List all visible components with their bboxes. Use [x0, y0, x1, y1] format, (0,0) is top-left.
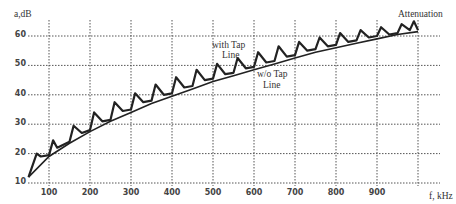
- svg-text:20: 20: [15, 148, 27, 157]
- svg-text:40: 40: [15, 89, 27, 98]
- svg-text:30: 30: [15, 118, 27, 127]
- svg-text:10: 10: [15, 177, 27, 186]
- x-axis-ticks: 100200300400500600700800900: [41, 188, 386, 197]
- svg-text:Line: Line: [222, 50, 239, 60]
- svg-text:w/o Tap: w/o Tap: [257, 69, 288, 79]
- svg-text:900: 900: [369, 188, 386, 197]
- attenuation-chart: 102030405060 100200300400500600700800900…: [0, 0, 456, 204]
- annotation-attenuation: Attenuation: [398, 9, 443, 19]
- svg-text:50: 50: [15, 59, 27, 68]
- svg-text:600: 600: [246, 188, 263, 197]
- svg-text:200: 200: [82, 188, 99, 197]
- annotation-with-tap-line: with Tap Line: [212, 40, 245, 60]
- svg-text:with Tap: with Tap: [212, 40, 245, 50]
- svg-text:60: 60: [15, 30, 27, 39]
- svg-text:Line: Line: [263, 80, 280, 90]
- svg-text:700: 700: [287, 188, 304, 197]
- annotation-without-tap-line: w/o Tap Line: [257, 69, 288, 90]
- svg-text:500: 500: [205, 188, 222, 197]
- x-axis-label: f, kHz: [429, 191, 453, 201]
- y-axis-label: a,dB: [14, 9, 32, 19]
- svg-text:300: 300: [123, 188, 140, 197]
- svg-text:800: 800: [328, 188, 345, 197]
- svg-text:100: 100: [41, 188, 58, 197]
- y-axis-ticks: 102030405060: [15, 30, 27, 186]
- svg-text:400: 400: [164, 188, 181, 197]
